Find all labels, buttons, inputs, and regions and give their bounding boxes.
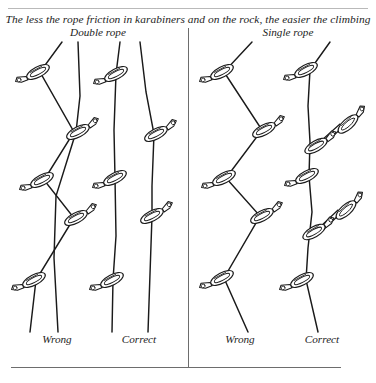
figure-page: The less the rope friction in karabiners…: [0, 0, 376, 383]
panel-3-artwork: [198, 42, 288, 332]
panel-2-label: Correct: [99, 333, 179, 345]
bottom-rule: [11, 367, 341, 368]
panel-1-label: Wrong: [17, 333, 97, 345]
diagram-artwork: [0, 0, 376, 383]
panel-3-label: Wrong: [200, 333, 280, 345]
panel-4-label: Correct: [282, 333, 362, 345]
panel-1-artwork: [10, 42, 102, 332]
panel-2-artwork: [88, 42, 180, 332]
panel-4-artwork: [278, 42, 369, 332]
